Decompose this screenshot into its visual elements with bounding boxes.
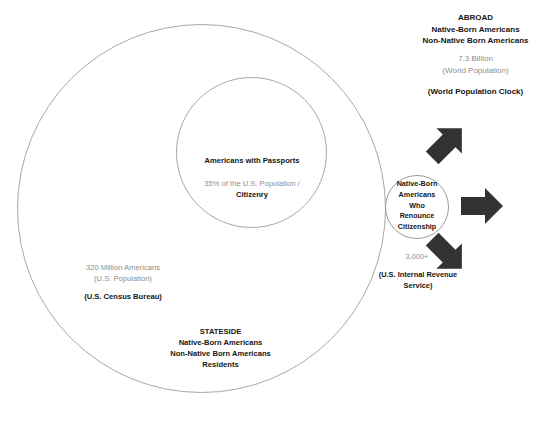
us-population-value: 320 Million Americans bbox=[58, 262, 188, 273]
passport-stat-line-1: 35% of the U.S. Population / bbox=[187, 178, 317, 189]
stateside-heading: STATESIDE bbox=[143, 326, 298, 337]
arrow-up-right-icon bbox=[424, 120, 470, 166]
passport-title-block: Americans with Passports bbox=[192, 155, 312, 166]
us-population-label: (U.S. Population) bbox=[58, 273, 188, 284]
abroad-line-1: Native-Born Americans bbox=[403, 24, 548, 36]
us-population-block: 320 Million Americans (U.S. Population) bbox=[58, 262, 188, 284]
world-population-label: (World Population) bbox=[403, 65, 548, 77]
abroad-block: ABROAD Native-Born Americans Non-Native … bbox=[403, 12, 548, 47]
stateside-block: STATESIDE Native-Born Americans Non-Nati… bbox=[143, 326, 298, 370]
renounce-line-4: Renounce bbox=[386, 211, 448, 222]
renounce-line-1: Native-Born bbox=[386, 179, 448, 190]
passport-title-label: Americans with Passports bbox=[192, 155, 312, 166]
arrow-right-icon bbox=[459, 183, 505, 229]
world-population-value: 7.3 Billion bbox=[403, 53, 548, 65]
abroad-heading: ABROAD bbox=[403, 12, 548, 24]
passport-stat-line-2: Citizenry bbox=[187, 189, 317, 200]
arrow-down-right-icon bbox=[424, 231, 470, 277]
us-population-source: (U.S. Census Bureau) bbox=[58, 291, 188, 302]
stateside-line-1: Native-Born Americans bbox=[143, 337, 298, 348]
diagram-canvas: ABROAD Native-Born Americans Non-Native … bbox=[0, 0, 551, 424]
passport-inner-circle bbox=[176, 77, 327, 228]
world-population-source-label: (World Population Clock) bbox=[403, 86, 548, 98]
renounce-line-3: Who bbox=[386, 201, 448, 212]
world-population-source: (World Population Clock) bbox=[403, 86, 548, 98]
passport-stat-block: 35% of the U.S. Population / Citizenry bbox=[187, 178, 317, 200]
abroad-line-2: Non-Native Born Americans bbox=[403, 35, 548, 47]
world-population-block: 7.3 Billion (World Population) bbox=[403, 53, 548, 76]
renounce-line-2: Americans bbox=[386, 190, 448, 201]
stateside-line-2: Non-Native Born Americans bbox=[143, 348, 298, 359]
stateside-line-3: Residents bbox=[143, 359, 298, 370]
us-population-source-label: (U.S. Census Bureau) bbox=[58, 291, 188, 302]
renounce-label-block: Native-Born Americans Who Renounce Citiz… bbox=[386, 179, 448, 233]
